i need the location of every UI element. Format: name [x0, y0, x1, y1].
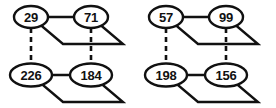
- node-71[interactable]: 71: [74, 6, 108, 28]
- node-99[interactable]: 99: [209, 6, 243, 28]
- left-diagram: 29 71 226 184: [10, 6, 123, 102]
- node-156-label: 156: [216, 68, 237, 83]
- node-57-label: 57: [159, 10, 173, 25]
- right-diagram: 57 99 198 156: [145, 6, 258, 102]
- node-198[interactable]: 198: [145, 64, 187, 87]
- node-198-label: 198: [156, 68, 177, 83]
- node-99-label: 99: [219, 10, 233, 25]
- node-29[interactable]: 29: [14, 6, 48, 28]
- node-184-label: 184: [81, 68, 103, 83]
- node-57[interactable]: 57: [149, 6, 183, 28]
- diagram-canvas: 29 71 226 184: [0, 0, 276, 108]
- node-71-label: 71: [84, 10, 98, 25]
- node-226[interactable]: 226: [10, 64, 52, 87]
- node-226-label: 226: [21, 68, 42, 83]
- diagram-svg: 29 71 226 184: [0, 0, 276, 108]
- node-156[interactable]: 156: [205, 64, 247, 87]
- node-184[interactable]: 184: [70, 64, 112, 87]
- node-29-label: 29: [24, 10, 38, 25]
